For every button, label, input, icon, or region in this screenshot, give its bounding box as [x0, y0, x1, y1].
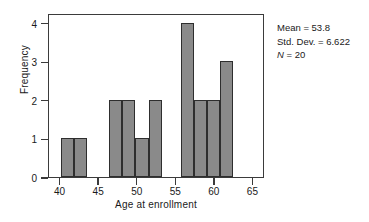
histogram-figure: Frequency 01234 404550556065 Age at enro… — [0, 0, 369, 222]
histogram-bar — [61, 138, 74, 177]
x-axis-tick-label: 50 — [122, 186, 152, 197]
histogram-bar — [135, 138, 148, 177]
y-axis-tick — [41, 62, 48, 63]
x-axis-tick-label: 60 — [199, 186, 229, 197]
histogram-bar — [220, 61, 233, 177]
x-axis-tick-label: 40 — [45, 186, 75, 197]
y-axis-tick-label: 2 — [18, 95, 37, 106]
y-axis-tick-label: 4 — [18, 18, 37, 29]
x-axis-tick-label: 45 — [83, 186, 113, 197]
y-axis-tick — [41, 177, 48, 178]
x-axis-tick — [213, 178, 214, 185]
x-axis-tick-label: 65 — [237, 186, 267, 197]
x-axis-tick — [252, 178, 253, 185]
n-label: N = 20 — [277, 48, 350, 62]
x-axis-tick — [136, 178, 137, 185]
n-value: = 20 — [284, 49, 305, 60]
histogram-bar — [207, 100, 220, 177]
x-axis-tick — [175, 178, 176, 185]
x-axis-tick-label: 55 — [160, 186, 190, 197]
histogram-bar — [122, 100, 135, 177]
mean-label: Mean = 53.8 — [277, 21, 350, 35]
y-axis-tick-label: 3 — [18, 57, 37, 68]
y-axis-tick-label: 1 — [18, 134, 37, 145]
std-dev-label: Std. Dev. = 6.622 — [277, 35, 350, 49]
y-axis-tick — [41, 23, 48, 24]
y-axis-title: Frequency — [19, 15, 30, 125]
n-symbol: N — [277, 49, 284, 60]
x-axis-tick — [97, 178, 98, 185]
histogram-bar — [74, 138, 87, 177]
histogram-bar — [109, 100, 122, 177]
plot-frame — [48, 14, 264, 178]
x-axis-tick — [59, 178, 60, 185]
y-axis-tick — [41, 100, 48, 101]
plot-area — [49, 15, 263, 177]
x-axis-title: Age at enrollment — [48, 199, 264, 210]
histogram-bar — [194, 100, 207, 177]
y-axis-tick — [41, 139, 48, 140]
histogram-bar — [181, 23, 194, 177]
histogram-bar — [149, 100, 162, 177]
statistics-annotation: Mean = 53.8 Std. Dev. = 6.622 N = 20 — [277, 21, 350, 62]
y-axis-tick-label: 0 — [18, 173, 37, 184]
